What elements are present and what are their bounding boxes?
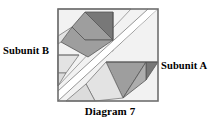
- figure-caption: Diagram 7: [0, 105, 220, 117]
- figure-root: Subunit B Subunit A Diagram 7: [0, 0, 220, 125]
- label-subunit-a: Subunit A: [161, 60, 219, 71]
- tangram-square: [58, 9, 158, 101]
- label-subunit-b: Subunit B: [3, 45, 59, 56]
